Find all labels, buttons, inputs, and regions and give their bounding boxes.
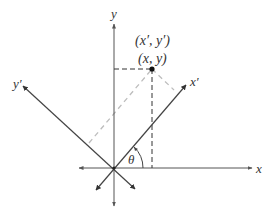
projection-onto-x-prime — [152, 69, 174, 90]
angle-theta-label: θ — [128, 152, 135, 167]
point-rotated-coords-label: (x′, y′) — [135, 33, 170, 49]
origin-point — [112, 166, 115, 169]
projection-onto-y-prime — [89, 69, 152, 143]
x-prime-axis-label: x′ — [189, 74, 199, 89]
point-marker — [149, 66, 154, 71]
point-original-coords-label: (x, y) — [138, 51, 167, 67]
x-prime-axis — [96, 85, 186, 190]
x-axis-label: x — [255, 161, 262, 176]
y-prime-axis-label: y′ — [11, 76, 22, 91]
y-axis-label: y — [109, 6, 117, 21]
rotation-of-axes-diagram: y x x′ y′ (x′, y′) (x, y) θ — [0, 0, 277, 215]
y-prime-axis — [23, 86, 135, 189]
